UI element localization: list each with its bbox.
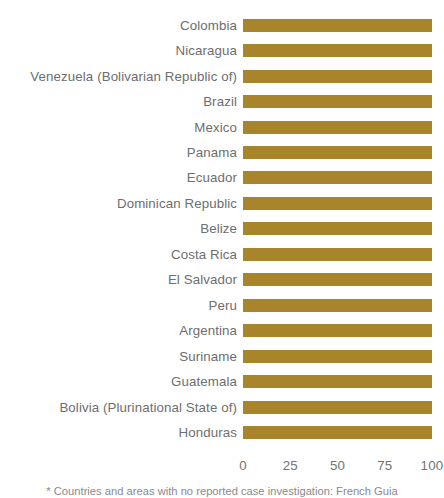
bar-row: Brazil bbox=[0, 89, 444, 115]
bar-row: Dominican Republic bbox=[0, 191, 444, 217]
bar-row: Peru bbox=[0, 292, 444, 318]
bar-row: Ecuador bbox=[0, 165, 444, 191]
bar-track bbox=[243, 273, 432, 286]
bar bbox=[243, 375, 432, 388]
bar-track bbox=[243, 350, 432, 363]
chart-footnote: * Countries and areas with no reported c… bbox=[0, 485, 444, 498]
bar bbox=[243, 146, 432, 159]
x-tick-label: 0 bbox=[239, 458, 247, 474]
bar bbox=[243, 248, 432, 261]
bar bbox=[243, 19, 432, 32]
bar bbox=[243, 324, 432, 337]
category-label: Argentina bbox=[0, 323, 237, 338]
bar-chart: ColombiaNicaraguaVenezuela (Bolivarian R… bbox=[0, 0, 444, 498]
bar-track bbox=[243, 248, 432, 261]
bar bbox=[243, 299, 432, 312]
category-label: Venezuela (Bolivarian Republic of) bbox=[0, 69, 237, 84]
bar bbox=[243, 171, 432, 184]
bar-track bbox=[243, 121, 432, 134]
x-axis: 0255075100 bbox=[243, 458, 432, 476]
bar-row: Colombia bbox=[0, 13, 444, 39]
bar-row: Suriname bbox=[0, 343, 444, 369]
bar-track bbox=[243, 146, 432, 159]
category-label: Peru bbox=[0, 298, 237, 313]
bar-row: Panama bbox=[0, 140, 444, 166]
x-tick-label: 25 bbox=[283, 458, 298, 474]
x-tick-label: 75 bbox=[377, 458, 392, 474]
category-label: Colombia bbox=[0, 18, 237, 33]
bar-row: Mexico bbox=[0, 114, 444, 140]
bar-track bbox=[243, 401, 432, 414]
bar-track bbox=[243, 222, 432, 235]
bar bbox=[243, 401, 432, 414]
bar-track bbox=[243, 197, 432, 210]
bar bbox=[243, 95, 432, 108]
bar bbox=[243, 44, 432, 57]
bar-row: Honduras bbox=[0, 420, 444, 446]
bar-track bbox=[243, 171, 432, 184]
bar-row: Nicaragua bbox=[0, 38, 444, 64]
category-label: Brazil bbox=[0, 94, 237, 109]
bar bbox=[243, 426, 432, 439]
bar-track bbox=[243, 426, 432, 439]
bar bbox=[243, 273, 432, 286]
bar-row: Bolivia (Plurinational State of) bbox=[0, 394, 444, 420]
category-label: El Salvador bbox=[0, 272, 237, 287]
bar bbox=[243, 70, 432, 83]
bar-row: Costa Rica bbox=[0, 242, 444, 268]
category-label: Nicaragua bbox=[0, 43, 237, 58]
category-label: Belize bbox=[0, 221, 237, 236]
bar-track bbox=[243, 299, 432, 312]
category-label: Guatemala bbox=[0, 374, 237, 389]
bar-track bbox=[243, 95, 432, 108]
bar-track bbox=[243, 324, 432, 337]
category-label: Bolivia (Plurinational State of) bbox=[0, 400, 237, 415]
bar-row: Belize bbox=[0, 216, 444, 242]
bar-row: Argentina bbox=[0, 318, 444, 344]
plot-area: ColombiaNicaraguaVenezuela (Bolivarian R… bbox=[0, 0, 444, 455]
category-label: Dominican Republic bbox=[0, 196, 237, 211]
category-label: Ecuador bbox=[0, 170, 237, 185]
bar-track bbox=[243, 70, 432, 83]
bar bbox=[243, 350, 432, 363]
category-label: Mexico bbox=[0, 120, 237, 135]
bar-track bbox=[243, 375, 432, 388]
category-label: Honduras bbox=[0, 425, 237, 440]
bar-row: El Salvador bbox=[0, 267, 444, 293]
bar bbox=[243, 222, 432, 235]
category-label: Suriname bbox=[0, 349, 237, 364]
x-tick-label: 50 bbox=[330, 458, 345, 474]
bar-row: Venezuela (Bolivarian Republic of) bbox=[0, 63, 444, 89]
x-tick-label: 100 bbox=[421, 458, 444, 474]
category-label: Panama bbox=[0, 145, 237, 160]
bar-track bbox=[243, 19, 432, 32]
bar-track bbox=[243, 44, 432, 57]
bar bbox=[243, 197, 432, 210]
bar-row: Guatemala bbox=[0, 369, 444, 395]
bar bbox=[243, 121, 432, 134]
category-label: Costa Rica bbox=[0, 247, 237, 262]
